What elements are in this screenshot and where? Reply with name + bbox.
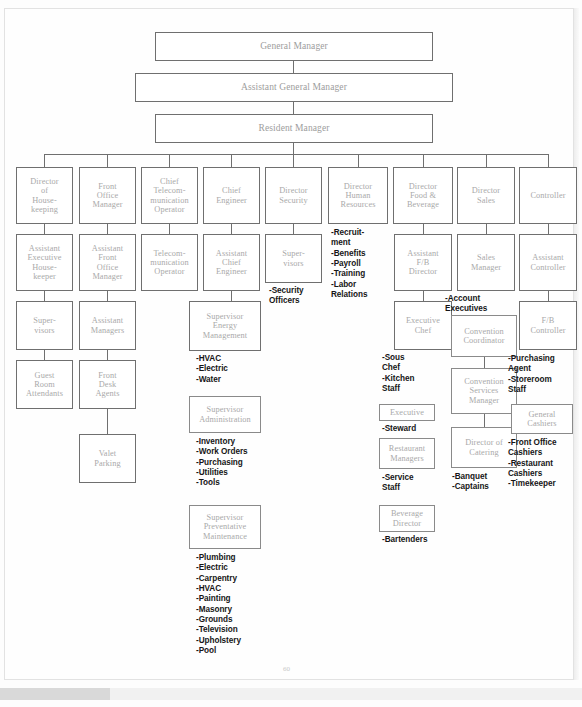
- box-guest-room-attendants: Guest Room Attendants: [16, 360, 73, 409]
- box-housekeeping-supervisors: Super- visors: [16, 301, 73, 350]
- list-human-resources-items: -Recruit- ment -Benefits -Payroll -Train…: [331, 228, 367, 300]
- list-executive-chef-items: -Sous Chef -Kitchen Staff: [382, 353, 414, 394]
- connector-department-bus: [44, 154, 548, 155]
- box-label: Chief Telecom- munication Operator: [148, 177, 190, 214]
- connector-agm-to-rm: [293, 102, 294, 114]
- box-supervisor-preventative-maintenance: Supervisor Preventative Maintenance: [189, 505, 261, 549]
- box-restaurant-managers: Restaurant Managers: [379, 438, 435, 469]
- connector-drop-telecom: [169, 154, 170, 167]
- box-telecommunication-operator: Telecom- munication Operator: [141, 234, 198, 291]
- connector-front-office-1: [107, 224, 108, 234]
- list-fb-controller-items: -Purchasing Agent -Storeroom Staff: [508, 354, 555, 395]
- box-label: Supervisor Energy Management: [201, 312, 249, 340]
- connector-gm-to-agm: [293, 61, 294, 73]
- box-label: Convention Services Manager: [462, 377, 506, 405]
- connector-drop-housekeeping: [44, 154, 45, 167]
- box-security-supervisors: Super- visors: [265, 234, 322, 283]
- box-label: Assistant F/B Director: [405, 249, 440, 277]
- box-label: Executive Chef: [404, 316, 442, 335]
- list-beverage-items: -Bartenders: [382, 535, 427, 545]
- box-label: Director of House- keeping: [28, 177, 60, 214]
- box-label: Resident Manager: [257, 123, 332, 134]
- box-label: Restaurant Managers: [387, 444, 427, 463]
- list-executive-items: -Steward: [382, 424, 416, 434]
- list-catering-items: -Banquet -Captains: [452, 472, 489, 493]
- box-convention-coordinator: Convention Coordinator: [451, 315, 517, 357]
- box-assistant-fb-director: Assistant F/B Director: [394, 234, 452, 291]
- box-label: Telecom- munication Operator: [148, 249, 190, 277]
- box-label: Director Food & Beverage: [405, 182, 441, 210]
- box-resident-manager: Resident Manager: [155, 114, 433, 143]
- box-label: Director Security: [277, 186, 309, 205]
- box-label: Supervisor Administration: [197, 405, 253, 424]
- box-director-food-beverage: Director Food & Beverage: [393, 167, 453, 224]
- box-executive-chef: Executive Chef: [394, 301, 452, 350]
- connector-drop-sales: [486, 154, 487, 167]
- box-assistant-general-manager: Assistant General Manager: [135, 73, 453, 102]
- box-supervisor-administration: Supervisor Administration: [189, 396, 261, 433]
- box-label: F/B Controller: [528, 316, 567, 335]
- box-valet-parking: Valet Parking: [79, 434, 136, 483]
- box-label: Super- visors: [31, 316, 58, 335]
- box-label: Sales Manager: [469, 253, 503, 272]
- box-label: Guest Room Attendants: [24, 371, 65, 399]
- box-label: Assistant Managers: [89, 316, 127, 335]
- box-label: Valet Parking: [92, 449, 123, 468]
- connector-controller-1: [548, 224, 549, 234]
- box-controller: Controller: [519, 167, 577, 224]
- connector-housekeeping-1: [44, 224, 45, 234]
- box-assistant-chief-engineer: Assistant Chief Engineer: [203, 234, 260, 291]
- list-administration-items: -Inventory -Work Orders -Purchasing -Uti…: [196, 437, 248, 489]
- connector-front-office-4: [107, 409, 108, 434]
- box-label: General Cashiers: [525, 410, 558, 429]
- box-label: Front Desk Agents: [93, 371, 121, 399]
- box-assistant-executive-housekeeper: Assistant Executive House- keeper: [16, 234, 73, 291]
- box-assistant-managers: Assistant Managers: [79, 301, 136, 350]
- connector-rm-to-bus: [293, 143, 294, 154]
- box-label: Director Sales: [470, 186, 502, 205]
- box-sales-manager: Sales Manager: [457, 234, 515, 291]
- connector-security-1: [293, 224, 294, 234]
- connector-drop-human-resources: [358, 154, 359, 167]
- list-security-items: -Security Officers: [269, 286, 304, 307]
- box-label: General Manager: [258, 41, 330, 52]
- box-assistant-front-office-manager: Assistant Front Office Manager: [79, 234, 136, 291]
- list-sales-manager-items: -Account Executives: [445, 294, 487, 315]
- box-label: Director of Catering: [463, 438, 505, 457]
- box-label: Beverage Director: [389, 509, 425, 528]
- connector-sales-1: [486, 224, 487, 234]
- connector-telecom-1: [169, 224, 170, 234]
- box-label: Assistant Executive House- keeper: [25, 244, 63, 281]
- list-energy-management-items: -HVAC -Electric -Water: [196, 354, 228, 385]
- box-label: Convention Coordinator: [461, 327, 506, 346]
- box-executive: Executive: [379, 404, 435, 421]
- box-label: Assistant Chief Engineer: [214, 249, 249, 277]
- box-front-office-manager: Front Office Manager: [79, 167, 136, 224]
- list-restaurant-items: -Service Staff: [382, 473, 413, 494]
- box-supervisor-energy-management: Supervisor Energy Management: [189, 301, 261, 351]
- box-label: Director Human Resources: [339, 182, 378, 210]
- connector-drop-controller: [548, 154, 549, 167]
- box-general-cashiers: General Cashiers: [511, 404, 573, 434]
- box-front-desk-agents: Front Desk Agents: [79, 360, 136, 409]
- box-general-manager: General Manager: [155, 32, 433, 61]
- box-label: Controller: [528, 191, 567, 200]
- connector-drop-engineering: [231, 154, 232, 167]
- box-beverage-director: Beverage Director: [379, 505, 435, 532]
- list-general-cashier-items: -Front Office Cashiers -Restaurant Cashi…: [508, 438, 556, 490]
- connector-fb-2: [423, 291, 424, 301]
- box-chief-engineer: Chief Engineer: [203, 167, 260, 224]
- box-director-security: Director Security: [265, 167, 322, 224]
- box-label: Assistant Controller: [528, 253, 567, 272]
- connector-housekeeping-2: [44, 291, 45, 301]
- page-number: 60: [283, 665, 290, 673]
- box-assistant-controller: Assistant Controller: [519, 234, 577, 291]
- connector-housekeeping-3: [44, 350, 45, 360]
- box-label: Supervisor Preventative Maintenance: [201, 513, 249, 541]
- box-director-human-resources: Director Human Resources: [328, 167, 388, 224]
- connector-drop-security: [293, 154, 294, 167]
- page-canvas: General Manager Assistant General Manage…: [0, 0, 582, 707]
- connector-fb-1: [423, 224, 424, 234]
- box-label: Super- visors: [280, 249, 307, 268]
- connector-sales-2: [484, 357, 485, 368]
